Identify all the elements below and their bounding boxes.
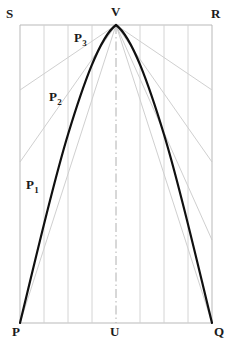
point-label-P1: P1	[26, 178, 39, 195]
figure-canvas	[0, 0, 233, 343]
subscript-3: 3	[82, 38, 87, 48]
subscript-1: 1	[34, 185, 39, 195]
vertex-label-R: R	[211, 7, 221, 20]
vertex-label-S: S	[6, 7, 13, 20]
vertex-label-U: U	[110, 325, 120, 338]
vertex-label-Q: Q	[214, 325, 224, 338]
parabola-figure: S V R P3 P2 P1 P U Q	[0, 0, 233, 343]
subscript-2: 2	[57, 97, 62, 107]
point-label-P2: P2	[49, 90, 62, 107]
vertex-label-V: V	[111, 5, 121, 18]
vertex-label-P: P	[12, 325, 20, 338]
point-label-P3: P3	[74, 31, 87, 48]
